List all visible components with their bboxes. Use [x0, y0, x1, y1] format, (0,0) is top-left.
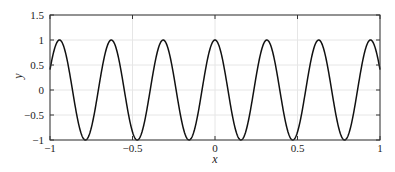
y-axis-label: y [11, 73, 25, 80]
y-tick-label: −0.5 [24, 109, 44, 121]
x-tick-label: −0.5 [123, 142, 143, 154]
y-tick-label: 1 [39, 34, 45, 46]
x-tick-label: 0.5 [291, 142, 305, 154]
x-axis-label: x [211, 152, 218, 166]
y-tick-label: 1.5 [30, 9, 44, 21]
x-tick-label: −1 [44, 142, 56, 154]
y-tick-label: 0 [39, 84, 45, 96]
line-chart: −1−0.500.51 −1−0.500.511.5 x y [0, 0, 395, 172]
x-tick-label: 1 [377, 142, 383, 154]
y-tick-label: 0.5 [30, 59, 44, 71]
y-tick-label: −1 [32, 134, 44, 146]
y-tick-labels: −1−0.500.511.5 [24, 9, 44, 146]
